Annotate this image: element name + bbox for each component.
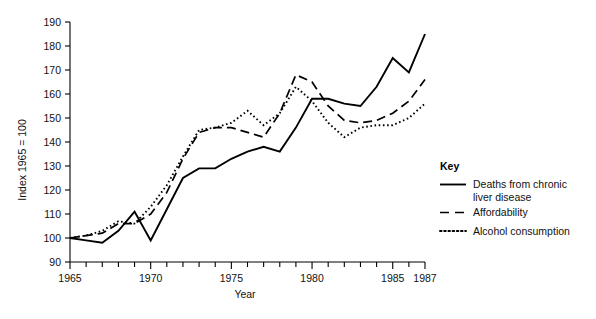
y-tick-label: 120 bbox=[43, 184, 61, 196]
y-tick-label: 100 bbox=[43, 232, 61, 244]
y-tick-label: 110 bbox=[44, 208, 61, 220]
legend-label-0: Deaths from chronic bbox=[473, 178, 567, 190]
y-tick-label: 160 bbox=[43, 88, 61, 100]
x-axis-tick-labels: 196519701975198019851987 bbox=[58, 272, 437, 284]
x-axis-ticks bbox=[70, 262, 425, 269]
y-tick-label: 140 bbox=[43, 136, 61, 148]
y-axis-tick-labels: 90100110120130140150160170180190 bbox=[43, 16, 61, 268]
legend-items: Deaths from chronicliver diseaseAffordab… bbox=[440, 178, 570, 237]
y-axis-ticks bbox=[65, 22, 70, 262]
x-tick-label: 1975 bbox=[220, 272, 244, 284]
y-tick-label: 180 bbox=[43, 40, 61, 52]
x-tick-label: 1970 bbox=[139, 272, 163, 284]
series-line-1 bbox=[70, 75, 425, 238]
series-line-0 bbox=[70, 34, 425, 243]
y-tick-label: 130 bbox=[43, 160, 61, 172]
x-tick-label: 1980 bbox=[300, 272, 324, 284]
y-tick-label: 90 bbox=[49, 256, 61, 268]
x-tick-label: 1987 bbox=[413, 272, 437, 284]
legend-label-1: Affordability bbox=[473, 206, 528, 218]
x-tick-label: 1965 bbox=[58, 272, 82, 284]
x-tick-label: 1985 bbox=[381, 272, 405, 284]
y-tick-label: 170 bbox=[43, 64, 61, 76]
legend-label-0-line2: liver disease bbox=[473, 191, 532, 203]
x-axis-title: Year bbox=[234, 288, 256, 300]
chart-series-group bbox=[70, 34, 425, 243]
y-tick-label: 150 bbox=[43, 112, 61, 124]
legend-label-2: Alcohol consumption bbox=[473, 225, 570, 237]
chart-figure: 90100110120130140150160170180190 1965197… bbox=[0, 0, 596, 319]
series-line-2 bbox=[70, 87, 425, 238]
chart-legend: Key Deaths from chronicliver diseaseAffo… bbox=[440, 160, 570, 237]
y-tick-label: 190 bbox=[43, 16, 61, 28]
legend-title: Key bbox=[440, 160, 459, 172]
y-axis-title: Index 1965 = 100 bbox=[16, 119, 28, 201]
